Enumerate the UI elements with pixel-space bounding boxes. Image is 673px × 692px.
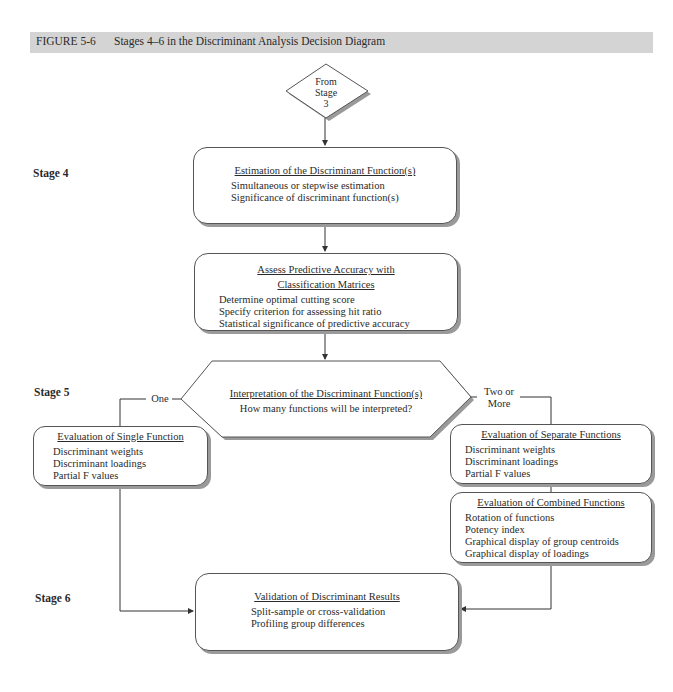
accuracy-box: Assess Predictive Accuracy with Classifi… [194,253,458,331]
estimation-title: Estimation of the Discriminant Function(… [194,165,456,177]
accuracy-item: Statistical significance of predictive a… [219,318,457,330]
branch-two-or-more-label: Two or More [478,386,520,410]
combined-item: Graphical display of group centroids [465,536,651,548]
validation-item: Profiling group differences [251,618,458,630]
branch-right-line-1: Two or [478,386,520,398]
combined-item: Rotation of functions [465,512,651,524]
stage-5-label: Stage 5 [34,386,69,398]
separate-functions-box: Evaluation of Separate Functions Discrim… [450,424,652,484]
branch-one-label: One [148,393,172,405]
stage-4-label: Stage 4 [33,167,68,179]
start-line-1: From [296,76,356,87]
combined-item: Graphical display of loadings [465,548,651,560]
interpretation-title: Interpretation of the Discriminant Funct… [190,386,462,401]
accuracy-title-2: Classification Matrices [195,277,457,292]
accuracy-item: Determine optimal cutting score [219,294,457,306]
estimation-item: Significance of discriminant function(s) [231,192,456,204]
validation-item: Split-sample or cross-validation [251,606,458,618]
start-node: From Stage 3 [296,76,356,109]
single-item: Discriminant loadings [53,458,207,470]
single-title: Evaluation of Single Function [34,431,207,443]
single-function-box: Evaluation of Single Function Discrimina… [33,426,208,486]
combined-title: Evaluation of Combined Functions [451,497,651,509]
separate-title: Evaluation of Separate Functions [451,429,651,441]
interpretation-node: Interpretation of the Discriminant Funct… [190,386,462,416]
combined-functions-box: Evaluation of Combined Functions Rotatio… [450,492,652,563]
interpretation-question: How many functions will be interpreted? [190,401,462,416]
stage-6-label: Stage 6 [35,592,70,604]
accuracy-title-1: Assess Predictive Accuracy with [195,262,457,277]
combined-item: Potency index [465,524,651,536]
validation-box: Validation of Discriminant Results Split… [195,573,459,651]
separate-item: Discriminant loadings [465,456,651,468]
start-line-3: 3 [296,98,356,109]
start-line-2: Stage [296,87,356,98]
estimation-item: Simultaneous or stepwise estimation [231,180,456,192]
separate-item: Partial F values [465,468,651,480]
estimation-box: Estimation of the Discriminant Function(… [193,147,457,224]
accuracy-item: Specify criterion for assessing hit rati… [219,306,457,318]
single-item: Partial F values [53,470,207,482]
branch-right-line-2: More [478,398,520,410]
validation-title: Validation of Discriminant Results [196,591,458,603]
single-item: Discriminant weights [53,446,207,458]
separate-item: Discriminant weights [465,444,651,456]
